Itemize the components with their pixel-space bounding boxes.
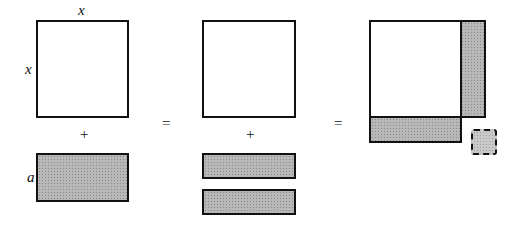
label-side-x: x (25, 62, 32, 77)
plus-sign-left: + (80, 127, 88, 142)
equals-sign-2: = (334, 116, 342, 131)
half-rectangle-top (202, 153, 296, 179)
bottom-strip (369, 116, 462, 143)
rectangle-x-by-a (36, 153, 129, 202)
half-rectangle-bottom (202, 189, 296, 215)
square-right (369, 20, 462, 118)
square-x-by-x (36, 20, 129, 118)
label-side-a: a (27, 170, 35, 185)
plus-sign-middle: + (246, 127, 254, 142)
equals-sign-1: = (162, 116, 170, 131)
right-strip (459, 20, 486, 118)
label-top-x: x (78, 3, 85, 18)
square-middle (202, 20, 296, 118)
missing-corner-square (471, 129, 497, 155)
